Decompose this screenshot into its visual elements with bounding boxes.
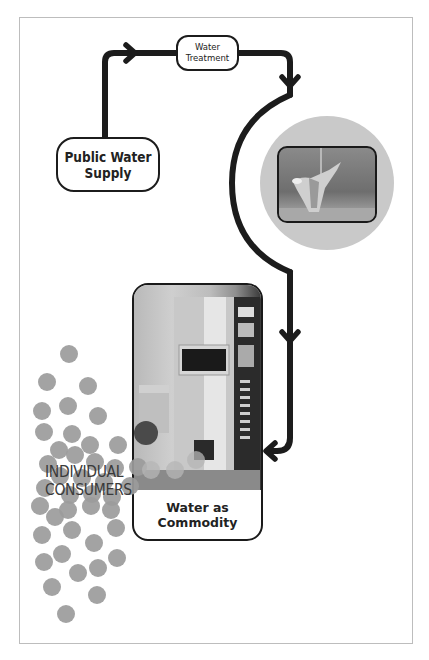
individual-consumers-label: INDIVIDUAL CONSUMERS — [45, 463, 132, 499]
consumer-dots — [0, 0, 429, 660]
